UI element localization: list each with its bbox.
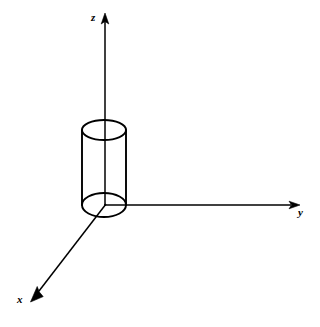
cylinder-top-ellipse bbox=[82, 120, 126, 140]
y-axis-label: y bbox=[298, 207, 303, 218]
x-axis bbox=[31, 204, 107, 302]
axes-group bbox=[31, 13, 301, 302]
figure-canvas: z y x bbox=[0, 0, 320, 327]
y-axis bbox=[104, 201, 300, 209]
z-axis bbox=[101, 13, 109, 206]
z-axis-label: z bbox=[91, 12, 95, 23]
x-axis-label: x bbox=[17, 294, 23, 305]
coordinate-axes-diagram bbox=[0, 0, 320, 327]
cylinder-shape bbox=[82, 120, 126, 217]
